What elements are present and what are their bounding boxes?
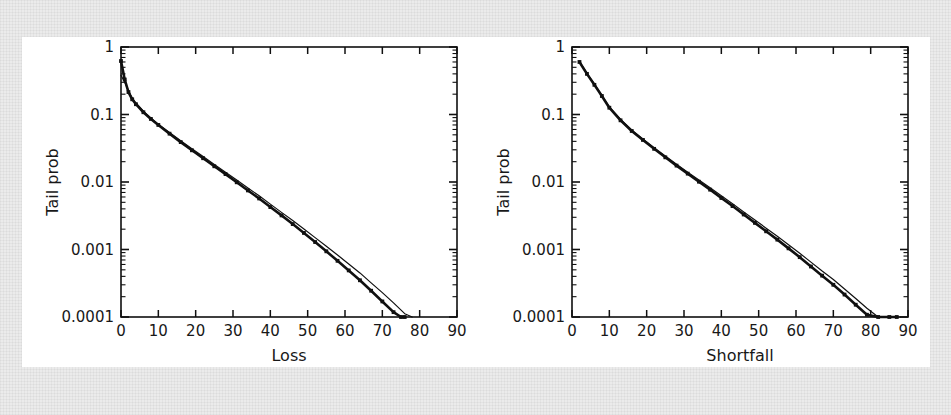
axes-frame bbox=[572, 47, 908, 317]
x-tick-label: 80 bbox=[861, 322, 880, 340]
x-tick-label: 20 bbox=[186, 322, 205, 340]
series-marker-empirical bbox=[764, 229, 768, 233]
y-tick-label: 0.0001 bbox=[62, 308, 115, 326]
y-axis-title: Tail prob bbox=[43, 148, 62, 216]
y-tick-label: 0.1 bbox=[90, 106, 114, 124]
x-tick-label: 30 bbox=[223, 322, 242, 340]
x-axis-title: Shortfall bbox=[706, 346, 773, 365]
series-marker-empirical bbox=[324, 249, 328, 253]
figure-container: 010203040506070809010.10.010.0010.0001Lo… bbox=[0, 0, 951, 415]
y-tick-label: 0.001 bbox=[522, 241, 565, 259]
axes-frame bbox=[121, 47, 457, 317]
x-axis-title: Loss bbox=[271, 346, 306, 365]
x-tick-label: 60 bbox=[786, 322, 805, 340]
series-marker-empirical bbox=[787, 246, 791, 250]
x-tick-label: 90 bbox=[447, 322, 466, 340]
series-marker-empirical bbox=[119, 59, 123, 63]
series-line-empirical bbox=[121, 61, 405, 317]
series-marker-empirical bbox=[291, 222, 295, 226]
x-tick-label: 40 bbox=[712, 322, 731, 340]
series-marker-empirical bbox=[369, 289, 373, 293]
series-marker-empirical bbox=[403, 315, 407, 319]
y-tick-label: 0.001 bbox=[71, 241, 114, 259]
dual-tail-probability-plot: 010203040506070809010.10.010.0010.0001Lo… bbox=[0, 0, 951, 415]
series-marker-empirical bbox=[798, 255, 802, 259]
series-marker-empirical bbox=[843, 293, 847, 297]
plot-panel-loss-panel: 010203040506070809010.10.010.0010.0001Lo… bbox=[43, 38, 467, 365]
x-tick-label: 10 bbox=[149, 322, 168, 340]
x-tick-label: 20 bbox=[637, 322, 656, 340]
x-tick-label: 60 bbox=[335, 322, 354, 340]
series-line-model bbox=[121, 75, 412, 317]
series-marker-empirical bbox=[313, 240, 317, 244]
series-marker-empirical bbox=[854, 303, 858, 307]
x-tick-label: 50 bbox=[749, 322, 768, 340]
x-tick-label: 70 bbox=[373, 322, 392, 340]
y-axis-title: Tail prob bbox=[494, 148, 513, 216]
series-marker-empirical bbox=[865, 313, 869, 317]
y-tick-label: 0.01 bbox=[532, 173, 565, 191]
y-tick-label: 0.1 bbox=[541, 106, 565, 124]
series-marker-empirical bbox=[380, 300, 384, 304]
y-tick-label: 1 bbox=[555, 38, 565, 56]
series-marker-empirical bbox=[302, 231, 306, 235]
series-marker-empirical bbox=[347, 269, 351, 273]
series-marker-empirical bbox=[358, 278, 362, 282]
x-tick-label: 40 bbox=[261, 322, 280, 340]
series-marker-empirical bbox=[399, 315, 403, 319]
x-tick-label: 0 bbox=[116, 322, 126, 340]
x-tick-label: 10 bbox=[600, 322, 619, 340]
y-tick-label: 0.01 bbox=[81, 173, 114, 191]
y-tick-label: 1 bbox=[104, 38, 114, 56]
series-line-model bbox=[579, 61, 900, 317]
series-marker-empirical bbox=[831, 283, 835, 287]
series-marker-empirical bbox=[336, 259, 340, 263]
x-tick-label: 70 bbox=[824, 322, 843, 340]
plot-panel-shortfall-panel: 010203040506070809010.10.010.0010.0001Sh… bbox=[494, 38, 918, 365]
x-tick-label: 0 bbox=[567, 322, 577, 340]
x-tick-label: 80 bbox=[410, 322, 429, 340]
y-tick-label: 0.0001 bbox=[513, 308, 566, 326]
x-tick-label: 50 bbox=[298, 322, 317, 340]
series-marker-empirical bbox=[775, 238, 779, 242]
series-marker-empirical bbox=[809, 265, 813, 269]
series-marker-empirical bbox=[820, 274, 824, 278]
series-line-empirical bbox=[579, 62, 896, 317]
x-tick-label: 90 bbox=[898, 322, 917, 340]
x-tick-label: 30 bbox=[674, 322, 693, 340]
series-marker-empirical bbox=[392, 310, 396, 314]
